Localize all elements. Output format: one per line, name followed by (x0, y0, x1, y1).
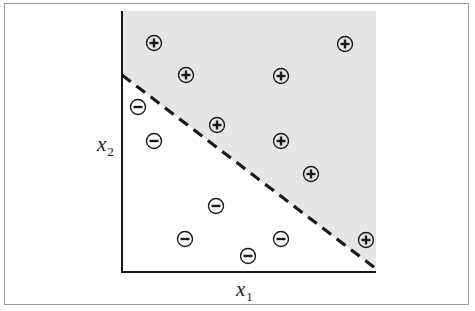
negative-point-icon (241, 249, 256, 264)
negative-point-icon (209, 199, 224, 214)
negative-point-icon (274, 232, 289, 247)
negative-point-icon (147, 134, 162, 149)
y-axis-label: x2 (96, 132, 114, 159)
negative-point-icon (178, 232, 193, 247)
positive-region-shading (122, 11, 376, 272)
negative-point-icon (131, 100, 146, 115)
scatter-plot: x2 x1 (0, 0, 475, 311)
x-axis-label: x1 (235, 277, 253, 304)
